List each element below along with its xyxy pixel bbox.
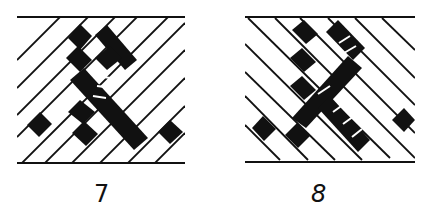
diagram-canvas [0, 0, 431, 216]
figure-label-7: 7 [94, 182, 109, 206]
figure-label-8: 8 [311, 182, 326, 206]
figure-7 [17, 17, 185, 163]
figure-8 [245, 17, 415, 162]
